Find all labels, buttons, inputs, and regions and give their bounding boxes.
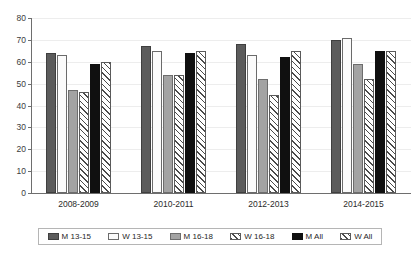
bar <box>152 51 162 193</box>
legend-label: M 16-18 <box>184 232 213 241</box>
legend-swatch-icon <box>170 233 181 240</box>
y-axis-tick-label: 80 <box>17 14 26 23</box>
y-axis-tick-mark <box>28 84 31 85</box>
bar <box>280 57 290 193</box>
legend-label: W All <box>354 232 372 241</box>
bar <box>163 75 173 193</box>
bar <box>101 62 111 193</box>
y-axis-tick-mark <box>28 127 31 128</box>
y-axis-tick-mark <box>28 62 31 63</box>
x-axis-category-label: 2012-2013 <box>221 196 316 212</box>
y-axis-tick-mark <box>28 193 31 194</box>
legend-label: M 13-15 <box>62 232 91 241</box>
bar <box>258 79 268 193</box>
legend-label: M All <box>306 232 323 241</box>
y-axis-tick-label: 70 <box>17 36 26 45</box>
bar <box>375 51 385 193</box>
y-axis-tick-label: 50 <box>17 79 26 88</box>
legend-item[interactable]: M All <box>292 232 323 241</box>
bar <box>79 92 89 193</box>
bar <box>342 38 352 193</box>
legend-swatch-icon <box>340 233 351 240</box>
bar <box>196 51 206 193</box>
bar <box>247 55 257 193</box>
bar <box>185 53 195 193</box>
bar <box>90 64 100 193</box>
legend-swatch-icon <box>108 233 119 240</box>
x-axis-category-label: 2010-2011 <box>126 196 221 212</box>
bar <box>364 79 374 193</box>
y-axis-tick-mark <box>28 106 31 107</box>
cropped-caption-sliver <box>0 258 417 265</box>
legend-swatch-icon <box>292 233 303 240</box>
y-axis-tick-label: 10 <box>17 167 26 176</box>
bar-group <box>316 0 411 193</box>
legend-label: W 13-15 <box>122 232 152 241</box>
bar <box>57 55 67 193</box>
y-axis-tick-label: 20 <box>17 145 26 154</box>
legend-swatch-icon <box>48 233 59 240</box>
bar <box>291 51 301 193</box>
bar <box>174 75 184 193</box>
bar <box>236 44 246 193</box>
bar <box>68 90 78 193</box>
bar-group <box>126 0 221 193</box>
x-axis-line <box>31 193 411 194</box>
bar-group <box>221 0 316 193</box>
y-axis-tick-label: 0 <box>21 189 26 198</box>
legend-item[interactable]: M 13-15 <box>48 232 91 241</box>
chart-legend: M 13-15W 13-15M 16-18W 16-18M AllW All <box>38 228 382 245</box>
bar-groups <box>31 0 411 193</box>
legend-item[interactable]: M 16-18 <box>170 232 213 241</box>
bar <box>353 64 363 193</box>
bar <box>386 51 396 193</box>
legend-item[interactable]: W All <box>340 232 372 241</box>
y-axis-tick-label: 60 <box>17 58 26 67</box>
x-axis-category-label: 2014-2015 <box>316 196 411 212</box>
plot-area: 01020304050607080 2008-20092010-20112012… <box>0 0 417 220</box>
y-axis-tick-label: 30 <box>17 123 26 132</box>
y-axis: 01020304050607080 <box>0 0 30 220</box>
x-axis-labels: 2008-20092010-20112012-20132014-2015 <box>31 196 411 212</box>
bar <box>46 53 56 193</box>
bar <box>331 40 341 193</box>
legend-item[interactable]: W 13-15 <box>108 232 152 241</box>
legend-item[interactable]: W 16-18 <box>230 232 274 241</box>
y-axis-tick-mark <box>28 149 31 150</box>
legend-swatch-icon <box>230 233 241 240</box>
y-axis-tick-mark <box>28 18 31 19</box>
y-axis-tick-mark <box>28 40 31 41</box>
y-axis-tick-label: 40 <box>17 101 26 110</box>
bar-chart: 01020304050607080 2008-20092010-20112012… <box>0 0 417 265</box>
bar <box>269 95 279 193</box>
bar-group <box>31 0 126 193</box>
legend-label: W 16-18 <box>244 232 274 241</box>
bar <box>141 46 151 193</box>
y-axis-tick-mark <box>28 171 31 172</box>
x-axis-category-label: 2008-2009 <box>31 196 126 212</box>
